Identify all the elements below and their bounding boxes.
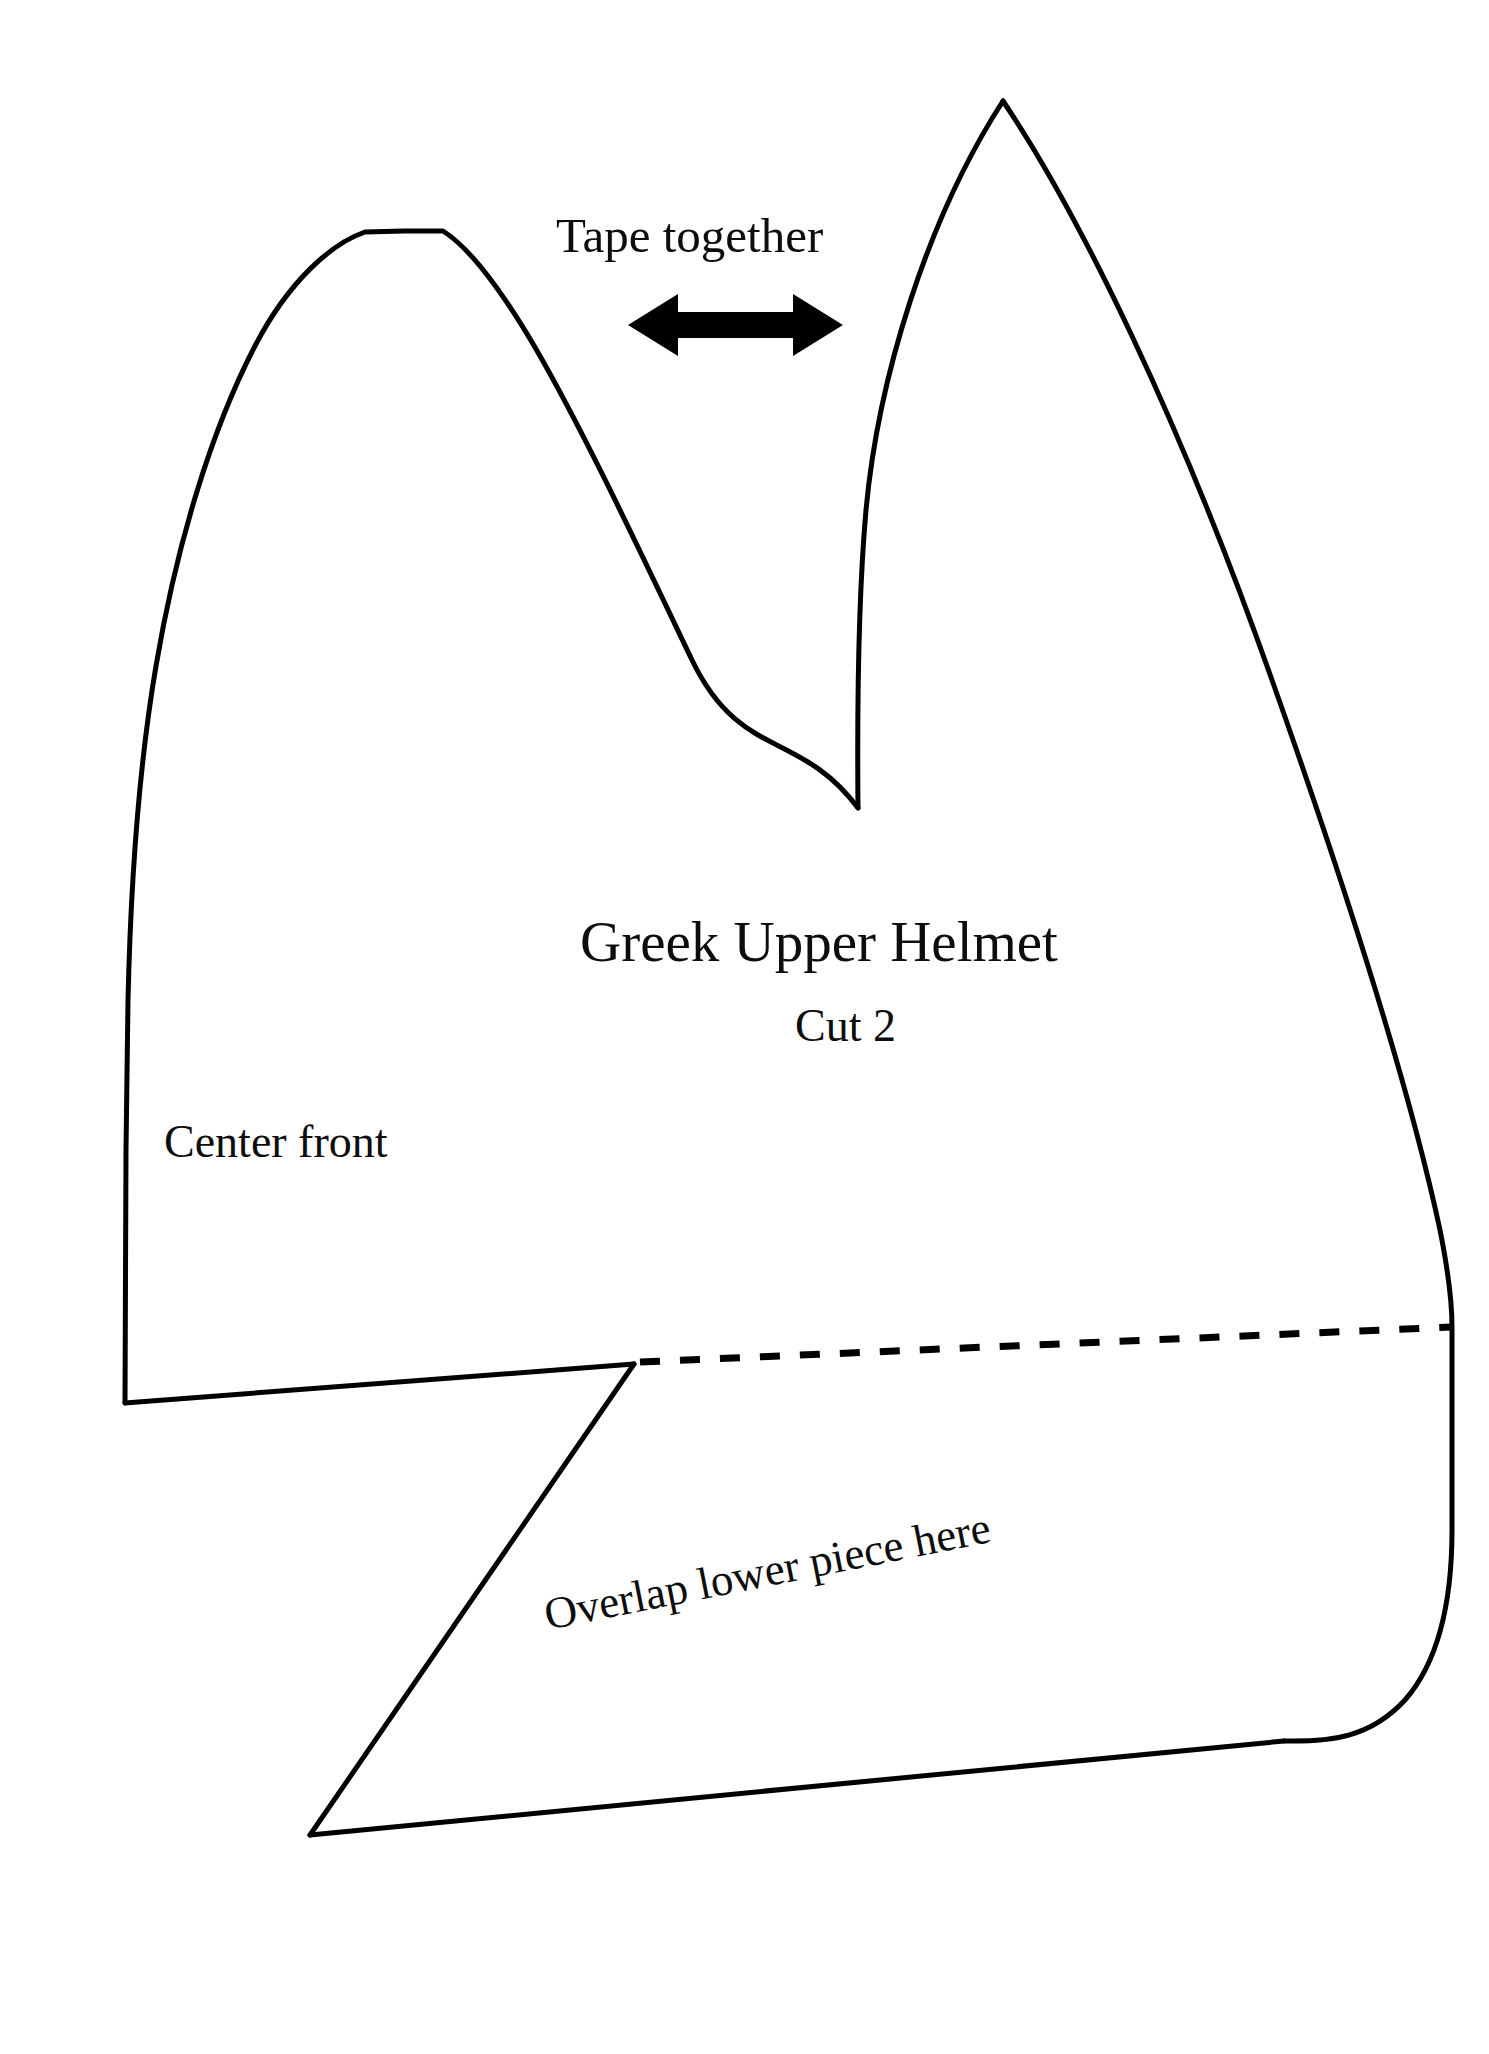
notch-right-edge-path bbox=[858, 101, 1003, 808]
lower-hem-path bbox=[310, 1741, 1284, 1835]
helmet-outline-path bbox=[125, 231, 858, 1403]
tape-together-label: Tape together bbox=[556, 210, 823, 261]
center-front-label: Center front bbox=[164, 1118, 388, 1166]
double-arrow-icon bbox=[628, 294, 843, 356]
right-outer-edge-path bbox=[1003, 101, 1452, 1741]
center-front-bottom-edge-path bbox=[125, 1364, 634, 1403]
cut-count-label: Cut 2 bbox=[795, 1002, 896, 1050]
page-title: Greek Upper Helmet bbox=[580, 912, 1058, 972]
pattern-page: Tape together Greek Upper Helmet Cut 2 C… bbox=[0, 0, 1489, 2054]
overlap-fold-dashed-line bbox=[640, 1327, 1452, 1362]
helmet-pattern-drawing bbox=[0, 0, 1489, 2054]
